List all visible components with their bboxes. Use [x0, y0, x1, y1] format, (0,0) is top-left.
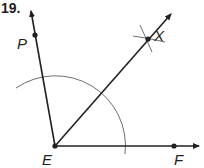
- label-F: F: [174, 151, 184, 168]
- point-X: [145, 36, 150, 41]
- point-P: [32, 32, 37, 37]
- label-E: E: [42, 151, 53, 168]
- label-P: P: [17, 35, 27, 52]
- problem-number: 19.: [1, 0, 20, 16]
- construction-arc: [16, 76, 125, 154]
- point-E: [52, 143, 57, 148]
- label-X: X: [153, 27, 165, 44]
- point-F: [171, 143, 176, 148]
- angle-bisector-diagram: 19. P X E F: [0, 0, 204, 168]
